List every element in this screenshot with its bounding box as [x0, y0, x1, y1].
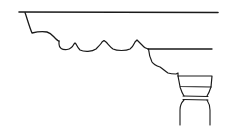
capital-echinus [180, 87, 211, 96]
column-shaft [180, 100, 210, 125]
capital-necking-band [183, 96, 208, 100]
cornice-profile-drawing [0, 0, 227, 133]
capital-abacus [178, 76, 212, 87]
dentil-scallop-band [59, 40, 148, 51]
upper-cyma-profile [25, 13, 59, 42]
lower-ogee-profile [149, 49, 179, 76]
upper-fascia-line [19, 12, 218, 13]
